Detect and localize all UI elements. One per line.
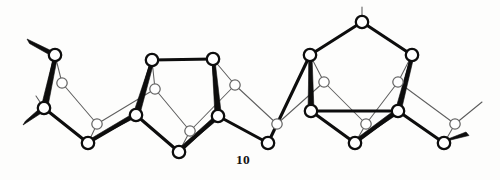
wedge-bond	[308, 56, 314, 112]
atom-node-front	[207, 53, 219, 65]
atom-node-back	[230, 80, 240, 90]
atom-node-back	[92, 119, 102, 129]
front-bond	[44, 108, 88, 143]
figure-number-label: 10	[0, 152, 500, 168]
thin-stub-group	[36, 7, 482, 124]
front-bond	[152, 59, 213, 60]
atom-node-front	[212, 110, 224, 122]
atom-node-front	[146, 54, 158, 66]
front-bond	[268, 55, 310, 143]
atom-node-back	[57, 78, 67, 88]
atom-node-back	[319, 77, 329, 87]
wedge-bond	[41, 56, 58, 109]
figure-number-text: 10	[236, 152, 250, 167]
atom-node-front	[49, 49, 61, 61]
atom-node-front	[438, 137, 450, 149]
atom-node-front	[406, 49, 418, 61]
atom-node-back	[393, 77, 403, 87]
atom-node-back	[150, 84, 160, 94]
front-bond	[398, 111, 444, 143]
back-bond	[366, 82, 398, 124]
front-bond	[311, 111, 355, 143]
atom-node-front	[356, 16, 368, 28]
atom-node-back	[185, 126, 195, 136]
atom-node-back	[361, 119, 371, 129]
atom-node-front	[262, 137, 274, 149]
atom-node-front	[305, 105, 317, 117]
atom-node-front	[38, 102, 50, 114]
front-bond	[310, 22, 362, 55]
back-bond	[155, 89, 190, 131]
back-bond	[324, 82, 366, 124]
atom-node-back	[272, 119, 282, 129]
back-bond	[62, 83, 97, 124]
atom-node-front	[130, 109, 142, 121]
atom-node-front	[349, 137, 361, 149]
back-bond	[277, 82, 324, 124]
front-bond	[136, 115, 179, 152]
atom-node-front	[82, 137, 94, 149]
atom-node-front	[304, 49, 316, 61]
front-bond	[218, 116, 268, 143]
front-bond	[362, 22, 412, 55]
back-bond	[235, 85, 277, 124]
atom-node-back	[450, 119, 460, 129]
atom-node-front	[392, 105, 404, 117]
chemical-structure-figure: 10	[0, 0, 500, 180]
